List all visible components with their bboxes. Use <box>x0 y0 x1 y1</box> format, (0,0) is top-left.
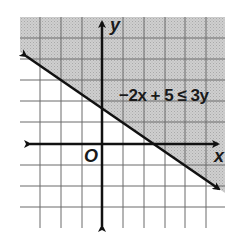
inequality-label: −2x + 5 ≤ 3y <box>119 86 209 105</box>
inequality-graph: y x O −2x + 5 ≤ 3y <box>0 0 232 243</box>
y-axis-label: y <box>109 15 121 35</box>
origin-label: O <box>84 146 98 166</box>
x-axis-label: x <box>213 146 225 166</box>
